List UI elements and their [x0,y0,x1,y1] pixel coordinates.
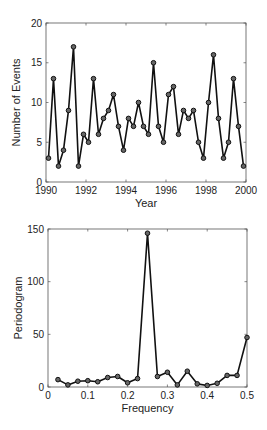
x-tick-label: 0.2 [121,390,135,401]
data-point-marker [95,379,100,384]
data-point-marker [171,84,176,89]
data-point-marker [201,156,206,161]
data-point-marker [121,148,126,153]
data-point-marker [221,156,226,161]
data-point-marker [136,100,141,105]
y-tick-label: 15 [31,57,43,68]
data-point-marker [245,335,250,340]
data-point-marker [146,132,151,137]
data-point-marker [111,92,116,97]
data-point-marker [196,140,201,145]
data-point-marker [185,369,190,374]
x-tick-label: 0.4 [200,390,214,401]
data-point-marker [206,100,211,105]
data-point-marker [181,108,186,113]
data-point-marker [96,132,101,137]
x-tick-label: 1994 [115,185,138,196]
y-tick-label: 100 [27,276,44,287]
data-point-marker [151,60,156,65]
data-point-marker [81,132,86,137]
data-point-marker [156,124,161,129]
data-line [58,233,247,385]
data-point-marker [126,116,131,121]
x-tick-label: 1998 [195,185,218,196]
data-point-marker [105,375,110,380]
data-point-marker [71,45,76,50]
data-point-marker [46,156,51,161]
data-point-marker [141,124,146,129]
data-point-marker [215,381,220,386]
data-point-marker [106,108,111,113]
data-point-marker [231,76,236,81]
data-point-marker [131,124,136,129]
data-point-marker [51,76,56,81]
data-point-marker [56,377,61,382]
x-tick-label: 1996 [155,185,178,196]
data-point-marker [176,132,181,137]
data-point-marker [166,92,171,97]
y-axis-label: Periodogram [12,277,24,340]
data-point-marker [236,124,241,129]
data-point-marker [216,116,221,121]
y-tick-label: 0 [38,382,44,393]
y-tick-label: 10 [31,97,43,108]
y-axis-label: Number of Events [10,58,22,147]
y-tick-label: 50 [33,329,45,340]
y-tick-label: 150 [27,224,44,235]
data-point-marker [76,379,81,384]
x-tick-label: 0 [45,390,51,401]
data-point-marker [205,383,210,388]
data-point-marker [161,140,166,145]
data-point-marker [86,140,91,145]
x-axis-label: Year [135,197,158,209]
data-point-marker [86,378,91,383]
data-point-marker [211,53,216,58]
data-point-marker [235,373,240,378]
data-point-marker [56,164,61,169]
data-point-marker [91,76,96,81]
plot-frame [48,229,247,387]
events-time-series-plot: 19901992199419961998200005101520YearNumb… [10,18,258,210]
data-point-marker [195,382,200,387]
x-tick-label: 0.3 [160,390,174,401]
chart-canvas: 19901992199419961998200005101520YearNumb… [0,0,267,430]
data-point-marker [165,370,170,375]
data-point-marker [226,140,231,145]
x-tick-label: 2000 [235,185,258,196]
data-point-marker [191,108,196,113]
data-point-marker [101,116,106,121]
x-tick-label: 1992 [75,185,98,196]
data-point-marker [125,380,130,385]
data-point-marker [135,376,140,381]
data-point-marker [225,373,230,378]
x-tick-label: 0.1 [81,390,95,401]
y-tick-label: 0 [36,177,42,188]
data-point-marker [66,108,71,113]
data-point-marker [186,116,191,121]
data-point-marker [145,231,150,236]
x-tick-label: 0.5 [240,390,254,401]
data-point-marker [76,164,81,169]
data-point-marker [241,164,246,169]
data-point-marker [66,383,71,388]
y-tick-label: 5 [36,137,42,148]
data-point-marker [155,374,160,379]
x-axis-label: Frequency [122,402,174,414]
data-point-marker [115,374,120,379]
data-point-marker [175,383,180,388]
data-point-marker [61,148,66,153]
data-line [49,47,244,166]
y-tick-label: 20 [31,18,43,29]
data-point-marker [116,124,121,129]
periodogram-plot: 00.10.20.30.40.5050100150FrequencyPeriod… [12,224,254,415]
